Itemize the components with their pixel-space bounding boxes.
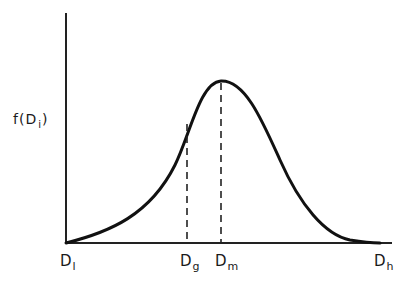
x-label-dl: Dl <box>60 254 76 272</box>
x-label-dg-main: D <box>180 252 192 270</box>
x-label-dh-main: D <box>374 252 386 270</box>
y-axis-label: f(Di) <box>13 112 48 130</box>
distribution-curve <box>66 81 380 243</box>
x-label-dl-sub: l <box>73 260 76 273</box>
x-label-dh-sub: h <box>387 260 394 273</box>
x-label-dm-main: D <box>215 252 227 270</box>
y-axis-label-main: f(D <box>13 111 37 127</box>
x-label-dg-sub: g <box>193 260 200 273</box>
x-label-dm: Dm <box>215 254 238 272</box>
x-label-dm-sub: m <box>228 260 239 273</box>
x-label-dl-main: D <box>60 252 72 270</box>
x-label-dg: Dg <box>180 254 200 272</box>
y-axis-label-close: ) <box>42 111 48 127</box>
x-label-dh: Dh <box>374 254 394 272</box>
distribution-diagram <box>0 0 414 285</box>
